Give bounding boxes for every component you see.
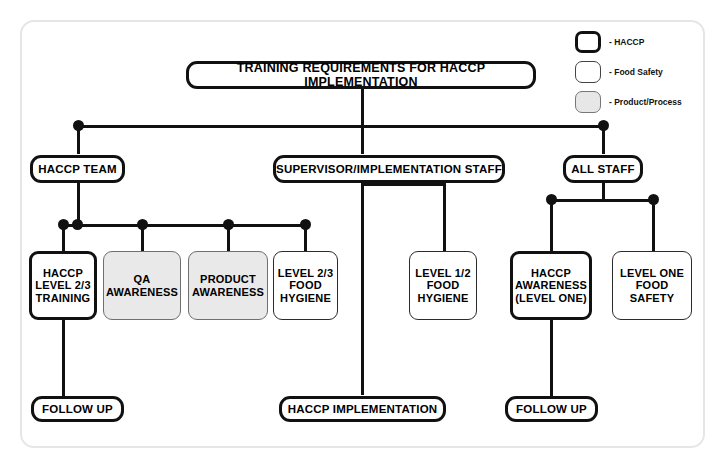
junction-dot-product-awareness (223, 219, 234, 230)
node-haccp-team-label: HACCP TEAM (33, 163, 122, 176)
node-haccp-awareness-level-one[interactable]: HACCPAWARENESS(LEVEL ONE) (510, 251, 592, 320)
node-level-one-food-safety[interactable]: LEVEL ONEFOODSAFETY (612, 251, 692, 320)
connector-down-haccp-awareness (550, 199, 553, 251)
diagram-canvas: - HACCP - Food Safety - Product/Process (0, 0, 725, 468)
legend-label-product-process: - Product/Process (609, 97, 682, 107)
connector-bus-level2 (78, 125, 605, 128)
legend-swatch-haccp-icon (575, 31, 601, 53)
legend-item-food-safety: - Food Safety (575, 58, 695, 85)
connector-down-follow-up-right (550, 320, 553, 396)
junction-dot-qa-awareness (137, 219, 148, 230)
node-all-staff-label: ALL STAFF (566, 163, 640, 176)
legend-swatch-food-safety-icon (575, 61, 601, 83)
legend-swatch-product-process-icon (575, 91, 601, 113)
node-qa-awareness[interactable]: QAAWARENESS (103, 251, 181, 320)
node-follow-up-left[interactable]: FOLLOW UP (31, 396, 124, 422)
connector-down-level12-food-hygiene (443, 183, 446, 251)
node-level-23-food-hygiene[interactable]: LEVEL 2/3FOODHYGIENE (273, 251, 338, 320)
connector-down-follow-up-left (62, 320, 65, 396)
connector-down-supervisor (361, 125, 364, 154)
node-supervisor-implementation-staff[interactable]: SUPERVISOR/IMPLEMENTATION STAFF (273, 155, 505, 183)
node-haccp-level-23-training-label: HACCPLEVEL 2/3TRAINING (32, 267, 94, 304)
junction-dot-level-one-food-safety (648, 194, 659, 205)
legend-item-product-process: - Product/Process (575, 88, 695, 115)
junction-dot-haccp-awareness (546, 194, 557, 205)
legend: - HACCP - Food Safety - Product/Process (575, 28, 695, 118)
junction-dot-haccp-team-stem (72, 219, 83, 230)
node-haccp-implementation[interactable]: HACCP IMPLEMENTATION (279, 396, 446, 422)
connector-supervisor-to-implementation (361, 183, 364, 395)
connector-bus-haccp-team-children (63, 224, 307, 227)
junction-dot-haccp-team (73, 120, 84, 131)
node-all-staff[interactable]: ALL STAFF (563, 155, 643, 183)
node-title-label: TRAINING REQUIREMENTS FOR HACCP IMPLEMEN… (189, 61, 533, 89)
node-level-12-food-hygiene-label: LEVEL 1/2FOODHYGIENE (410, 267, 476, 304)
connector-supervisor-split (361, 183, 446, 186)
connector-down-level-one-food-safety (652, 199, 655, 251)
junction-dot-haccp-training (58, 219, 69, 230)
node-haccp-level-23-training[interactable]: HACCPLEVEL 2/3TRAINING (29, 251, 97, 320)
node-haccp-implementation-label: HACCP IMPLEMENTATION (282, 403, 443, 416)
connector-bus-all-staff-children (551, 199, 656, 202)
node-supervisor-implementation-staff-label: SUPERVISOR/IMPLEMENTATION STAFF (276, 163, 502, 176)
node-qa-awareness-label: QAAWARENESS (104, 273, 180, 298)
node-title[interactable]: TRAINING REQUIREMENTS FOR HACCP IMPLEMEN… (186, 61, 536, 89)
node-haccp-team[interactable]: HACCP TEAM (30, 155, 125, 183)
connector-title-down (361, 88, 364, 126)
node-product-awareness[interactable]: PRODUCTAWARENESS (188, 251, 268, 320)
junction-dot-all-staff (598, 120, 609, 131)
node-follow-up-right[interactable]: FOLLOW UP (505, 396, 598, 422)
node-haccp-awareness-level-one-label: HACCPAWARENESS(LEVEL ONE) (513, 267, 589, 304)
node-follow-up-right-label: FOLLOW UP (508, 403, 595, 416)
legend-item-haccp: - HACCP (575, 28, 695, 55)
node-product-awareness-label: PRODUCTAWARENESS (189, 273, 267, 298)
legend-label-food-safety: - Food Safety (609, 67, 663, 77)
node-level-one-food-safety-label: LEVEL ONEFOODSAFETY (613, 267, 691, 304)
node-level-12-food-hygiene[interactable]: LEVEL 1/2FOODHYGIENE (409, 251, 477, 320)
legend-label-haccp: - HACCP (609, 37, 644, 47)
node-level-23-food-hygiene-label: LEVEL 2/3FOODHYGIENE (274, 267, 337, 304)
junction-dot-level23-food-hygiene (300, 219, 311, 230)
node-follow-up-left-label: FOLLOW UP (34, 403, 121, 416)
